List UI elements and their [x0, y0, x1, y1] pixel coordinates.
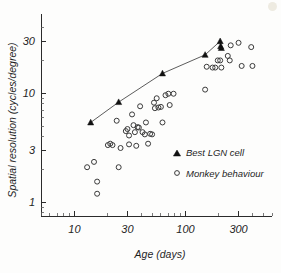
point-monkey-behaviour — [171, 91, 176, 96]
x-tick-label: 10 — [68, 223, 81, 235]
point-best-lgn-cell — [88, 119, 94, 125]
point-monkey-behaviour — [95, 191, 100, 196]
point-monkey-behaviour — [228, 43, 233, 48]
point-monkey-behaviour — [160, 120, 165, 125]
point-monkey-behaviour — [143, 120, 148, 125]
legend-label-best-lgn-cell: Best LGN cell — [186, 147, 245, 158]
point-best-lgn-cell — [217, 38, 223, 44]
y-tick-label: 3 — [29, 144, 36, 156]
point-monkey-behaviour — [130, 112, 135, 117]
point-monkey-behaviour — [219, 65, 224, 70]
point-monkey-behaviour — [227, 58, 232, 63]
point-monkey-behaviour — [116, 165, 121, 170]
point-best-lgn-cell — [116, 99, 122, 105]
x-tick-label: 30 — [121, 223, 134, 235]
point-monkey-behaviour — [154, 96, 159, 101]
axis-ticks — [41, 28, 272, 216]
point-monkey-behaviour — [204, 64, 209, 69]
axes — [41, 14, 272, 216]
point-monkey-behaviour — [236, 40, 241, 45]
point-monkey-behaviour — [146, 141, 151, 146]
x-tick-label: 100 — [176, 223, 195, 235]
point-monkey-behaviour — [114, 118, 119, 123]
spatial-resolution-scatter-chart: 1030100300131030 Age (days) Spatial reso… — [0, 0, 281, 273]
point-monkey-behaviour — [85, 165, 90, 170]
x-tick-label: 300 — [229, 223, 248, 235]
legend: Best LGN cell Monkey behaviour — [173, 147, 264, 179]
point-monkey-behaviour — [203, 87, 208, 92]
point-monkey-behaviour — [95, 179, 100, 184]
y-tick-label: 1 — [29, 196, 35, 208]
figure-container: 1030100300131030 Age (days) Spatial reso… — [0, 0, 281, 273]
point-monkey-behaviour — [92, 159, 97, 164]
point-monkey-behaviour — [167, 103, 172, 108]
legend-marker-monkey-behaviour — [175, 171, 180, 176]
point-monkey-behaviour — [118, 146, 123, 151]
y-axis-title: Spatial resolution (cycles/degree) — [6, 42, 18, 197]
y-tick-label: 10 — [23, 87, 36, 99]
point-best-lgn-cell — [159, 70, 165, 76]
point-monkey-behaviour — [132, 130, 137, 135]
x-axis-title: Age (days) — [134, 248, 186, 260]
y-tick-label: 30 — [23, 35, 36, 47]
point-monkey-behaviour — [138, 104, 143, 109]
point-monkey-behaviour — [250, 63, 255, 68]
point-monkey-behaviour — [127, 133, 132, 138]
legend-label-monkey-behaviour: Monkey behaviour — [186, 168, 264, 179]
point-monkey-behaviour — [134, 143, 139, 148]
scan-artifact — [268, 2, 277, 11]
point-monkey-behaviour — [249, 45, 254, 50]
point-monkey-behaviour — [127, 142, 132, 147]
point-monkey-behaviour — [239, 63, 244, 68]
legend-marker-best-lgn-cell — [173, 150, 180, 156]
